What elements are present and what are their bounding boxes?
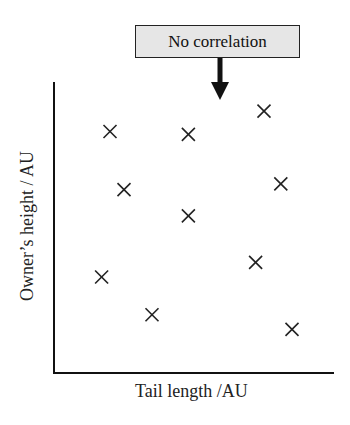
x-axis-label: Tail length /AU xyxy=(135,381,248,402)
arrow-head-icon xyxy=(211,82,229,100)
scatter-plot xyxy=(0,0,350,425)
data-markers xyxy=(95,105,298,336)
y-axis-label: Owner’s height / AU xyxy=(17,151,38,301)
